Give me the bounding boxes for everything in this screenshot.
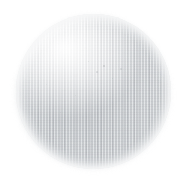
- image-canvas: [0, 0, 185, 181]
- disc-speck: [131, 104, 132, 105]
- disc-speck: [60, 112, 61, 113]
- disc-speck: [96, 71, 97, 72]
- disc-speck: [120, 68, 121, 69]
- disc-speck: [112, 78, 113, 79]
- disc-speck: [88, 61, 89, 62]
- disc-weave-texture-secondary: [16, 14, 171, 169]
- disc-group: [0, 0, 185, 181]
- disc-speck: [108, 128, 109, 129]
- disc-speck: [46, 84, 47, 85]
- disc-speck: [103, 65, 104, 66]
- disc-speck: [75, 95, 76, 96]
